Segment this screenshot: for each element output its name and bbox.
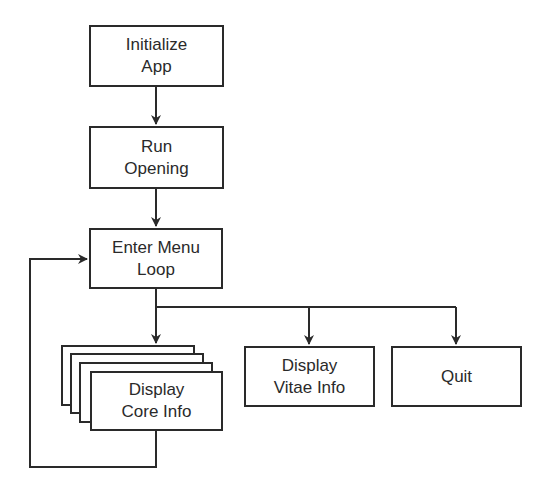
node-quit: Quit [391, 346, 522, 407]
node-label: Vitae Info [274, 377, 346, 399]
node-display-vitae-info: Display Vitae Info [244, 346, 375, 407]
node-label: Quit [441, 366, 472, 388]
node-enter-menu-loop: Enter Menu Loop [89, 228, 223, 289]
node-run-opening: Run Opening [89, 126, 224, 189]
node-label: Enter Menu [112, 237, 200, 259]
node-display-core-info: Display Core Info [90, 371, 223, 431]
node-label: Display [274, 355, 346, 377]
node-label: Opening [124, 158, 188, 180]
node-label: Loop [112, 259, 200, 281]
node-label: Core Info [122, 401, 192, 423]
node-label: Initialize [126, 34, 187, 56]
node-label: App [126, 56, 187, 78]
node-label: Run [124, 136, 188, 158]
node-initialize-app: Initialize App [89, 25, 224, 87]
node-label: Display [122, 379, 192, 401]
